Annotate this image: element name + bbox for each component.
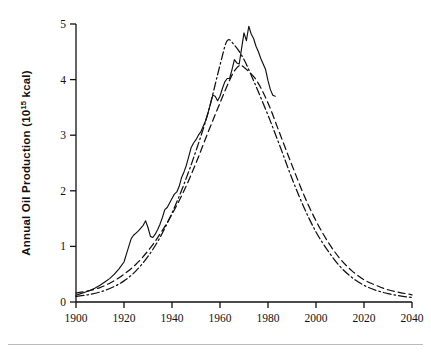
y-tick-label: 5 [60,18,66,30]
y-axis-label-main: Annual Oil Production (10 [20,110,32,256]
x-tick-label: 2040 [401,312,424,324]
y-axis-label-text: Annual Oil Production (1015 kcal) [19,70,32,256]
x-tick-label: 1960 [209,312,232,324]
oil-production-chart: 012345 19001920194019601980200020202040 … [0,0,431,356]
footer-divider [8,344,423,345]
x-tick-label: 1900 [65,312,88,324]
y-axis-label: Annual Oil Production (1015 kcal) [19,70,32,256]
y-tick-label: 4 [60,74,66,86]
x-tick-label: 2000 [305,312,328,324]
y-axis-label-exponent: 15 [19,101,28,110]
x-tick-label: 1980 [257,312,280,324]
y-axis-label-tail: kcal) [20,70,32,101]
x-tick-label: 1920 [113,312,136,324]
chart-svg: 012345 19001920194019601980200020202040 … [0,0,431,356]
x-tick-label: 1940 [161,312,184,324]
y-tick-label: 1 [60,240,66,252]
y-tick-label: 2 [60,185,66,197]
x-tick-label: 2020 [353,312,376,324]
y-tick-label: 0 [60,296,66,308]
y-tick-label: 3 [60,129,66,141]
